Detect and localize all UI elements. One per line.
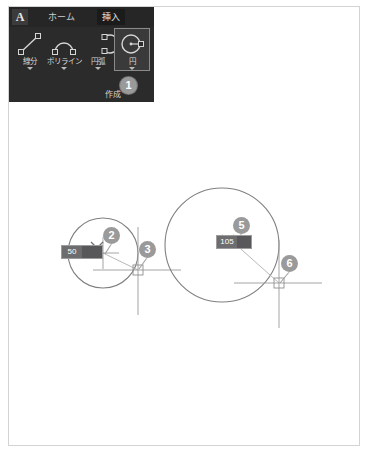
small-circle-radius-value: 50: [62, 246, 82, 258]
dynamic-input-field-small[interactable]: [82, 246, 102, 258]
annotation-badge-6: 6: [281, 255, 298, 272]
tab-home[interactable]: ホーム: [43, 9, 80, 25]
annotation-badge-5: 5: [233, 217, 250, 234]
tool-polyline-label: ポリライン: [47, 57, 81, 66]
badge-leader-lines: [105, 233, 290, 283]
tool-line[interactable]: 線分: [13, 29, 47, 70]
panel-title-create: 作成: [105, 90, 121, 100]
drawing-geometry: [9, 103, 359, 445]
chevron-down-icon[interactable]: [61, 67, 67, 70]
circle-icon: [116, 31, 148, 57]
chevron-down-icon[interactable]: [95, 67, 101, 70]
tool-line-label: 線分: [13, 57, 47, 66]
tool-row: 線分 ポリライン: [13, 29, 149, 70]
chevron-down-icon[interactable]: [27, 67, 33, 70]
screenshot-root: A ホーム 挿入 線分: [0, 0, 370, 455]
large-circle-radius-value: 105: [217, 236, 237, 248]
annotation-badge-3: 3: [139, 241, 156, 258]
tool-circle[interactable]: 円: [115, 29, 149, 70]
leader-line-6: [280, 271, 290, 283]
annotation-badge-2: 2: [103, 227, 120, 244]
line-icon: [14, 31, 46, 57]
leader-line-2: [105, 243, 112, 254]
autocad-logo[interactable]: A: [12, 9, 28, 25]
chevron-down-icon[interactable]: [129, 67, 135, 70]
tab-insert[interactable]: 挿入: [97, 9, 125, 25]
drawing-canvas[interactable]: 50 105: [9, 103, 359, 445]
dynamic-input-field-large[interactable]: [237, 236, 251, 248]
arc-icon: [82, 31, 114, 57]
tool-circle-label: 円: [115, 57, 149, 66]
tool-arc-label: 円弧: [81, 57, 115, 66]
dynamic-input-small-circle[interactable]: 50: [61, 245, 103, 259]
annotation-badge-1: 1: [120, 77, 137, 94]
small-circle-group: [68, 218, 181, 315]
tool-polyline[interactable]: ポリライン: [47, 29, 81, 70]
polyline-icon: [48, 31, 80, 57]
large-circle-group: [165, 188, 322, 328]
tool-arc[interactable]: 円弧: [81, 29, 115, 70]
ribbon-tab-bar: A ホーム 挿入: [9, 7, 154, 27]
dynamic-input-large-circle[interactable]: 105: [216, 235, 252, 249]
